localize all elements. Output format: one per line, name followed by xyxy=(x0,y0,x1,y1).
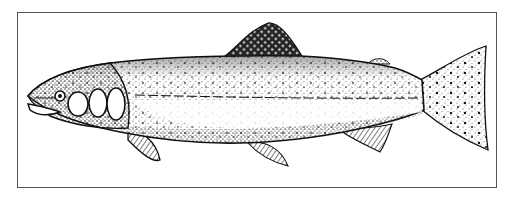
illustration-stage: Trout xyxy=(0,0,515,199)
gill-plate xyxy=(107,88,125,120)
gill-plate xyxy=(89,89,107,117)
pelvic-fin xyxy=(248,142,288,166)
gill-plate xyxy=(68,92,88,116)
dorsal-fin xyxy=(225,23,302,56)
fish-illustration xyxy=(0,0,515,199)
